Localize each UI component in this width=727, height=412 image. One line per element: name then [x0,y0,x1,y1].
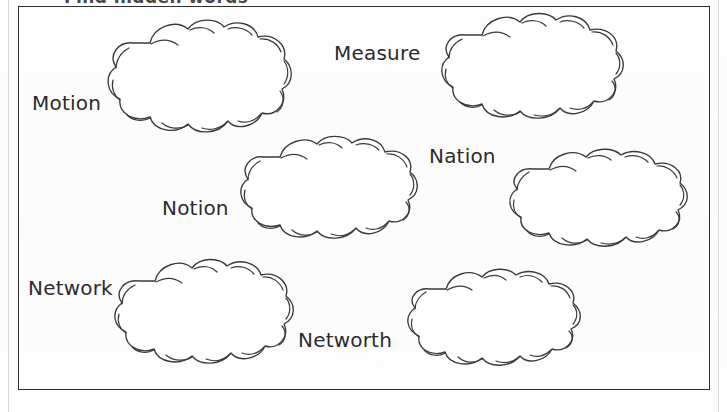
word-label-motion: Motion [32,91,101,115]
word-label-nation: Nation [429,144,496,168]
cloud-shape-middle-right [506,147,697,254]
cloud-shape-top-right [438,11,632,127]
cloud-shape-top-left [104,17,296,141]
word-label-measure: Measure [334,41,420,65]
word-label-network: Network [28,276,113,300]
word-label-networth: Networth [298,328,392,352]
cloud-shape-bottom-left [111,257,302,372]
cloud-shape-bottom-right [404,267,588,372]
worksheet-page: Find hidden words [0,0,727,412]
word-label-notion: Notion [162,196,229,220]
page-edge-rule-left [8,0,9,412]
cloud-shape-middle-left [237,134,427,247]
page-edge-rule-right [718,0,719,412]
